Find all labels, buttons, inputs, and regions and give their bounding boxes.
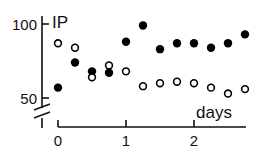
open-point <box>106 62 113 69</box>
filled-point <box>54 83 62 91</box>
x-tick-label: 2 <box>190 132 198 149</box>
open-point <box>123 68 130 75</box>
open-point <box>208 84 215 91</box>
open-point <box>225 90 232 97</box>
filled-point <box>122 38 130 46</box>
y-axis-title: IP <box>52 13 68 32</box>
series-open <box>55 40 249 97</box>
x-tick-label: 0 <box>54 132 62 149</box>
series-filled <box>54 21 249 92</box>
open-point <box>174 78 181 85</box>
y-axis-break-mark-lower <box>34 112 50 118</box>
open-point <box>242 86 249 93</box>
open-point <box>55 40 62 47</box>
open-point <box>191 80 198 87</box>
data-points <box>54 21 249 97</box>
open-point <box>89 74 96 81</box>
filled-point <box>139 21 147 29</box>
filled-point <box>105 69 113 77</box>
open-point <box>140 83 147 90</box>
open-point <box>157 80 164 87</box>
open-point <box>72 44 79 51</box>
filled-point <box>190 39 198 47</box>
filled-point <box>71 58 79 66</box>
scatter-chart: 50100 012 IP days <box>0 0 261 153</box>
y-tick-label: 100 <box>12 16 37 33</box>
x-tick-label: 1 <box>122 132 130 149</box>
filled-point <box>173 39 181 47</box>
filled-point <box>224 39 232 47</box>
filled-point <box>207 43 215 51</box>
y-tick-label: 50 <box>20 90 37 107</box>
filled-point <box>156 45 164 53</box>
x-axis-title: days <box>196 103 232 122</box>
x-ticks: 012 <box>54 120 198 149</box>
y-ticks: 50100 <box>12 16 49 107</box>
filled-point <box>241 30 249 38</box>
